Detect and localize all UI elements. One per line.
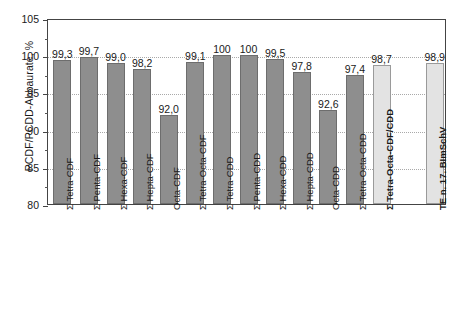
bar-value-label: 98,2: [124, 58, 160, 69]
y-axis-tick: [43, 132, 48, 133]
y-axis-tick-label: 95: [0, 88, 39, 99]
x-axis-label: TE n. 17. BImSchV: [437, 127, 448, 210]
bar-value-label: 99,5: [257, 48, 293, 59]
bar-chart: PCDF/PCDD-Abbaurate, % 80859095100105 99…: [0, 0, 456, 332]
bar-value-label: 98,9: [417, 52, 453, 63]
x-axis-label: Σ Tetra-CDD: [224, 157, 235, 210]
y-axis-tick: [43, 94, 48, 95]
y-axis-tick-label: 85: [0, 163, 39, 174]
bar-value-label: 92,0: [151, 104, 187, 115]
x-axis-label: Σ Tetra-CDF: [64, 158, 75, 210]
x-axis-label: Σ Tetra-Octa-CDD: [357, 133, 368, 210]
x-axis-label: Σ Hepta-CDD: [304, 152, 315, 210]
bar-value-label: 98,7: [364, 54, 400, 65]
y-axis-minor-tick: [45, 150, 48, 151]
y-axis-minor-tick: [45, 39, 48, 40]
y-axis-tick-label: 80: [0, 200, 39, 211]
x-axis-label: Σ Penta-CDF: [91, 154, 102, 210]
y-axis-tick-label: 105: [0, 14, 39, 25]
x-axis-label: Octa-CDD: [330, 166, 341, 210]
y-axis-tick: [43, 20, 48, 21]
y-axis-tick-label: 90: [0, 126, 39, 137]
y-axis-tick: [43, 206, 48, 207]
x-axis-label: Σ Hexa-CDF: [118, 157, 129, 210]
x-axis-label: Σ Hepta-CDF: [144, 153, 155, 210]
x-axis-label: Σ Penta-CDD: [251, 153, 262, 210]
y-axis-minor-tick: [45, 76, 48, 77]
x-axis-label: Σ Tetra-Octa-CDF/CDD: [384, 109, 395, 210]
bar-value-label: 92,6: [310, 99, 346, 110]
y-axis-minor-tick: [45, 187, 48, 188]
y-axis-minor-tick: [45, 113, 48, 114]
y-axis-tick-label: 100: [0, 51, 39, 62]
x-axis-label: Σ Tetra-Octa-CDF: [197, 134, 208, 210]
x-axis-label: Σ Hexa-CDD: [277, 156, 288, 210]
bar-value-label: 97,4: [337, 64, 373, 75]
x-axis-label: Octa-CDF: [171, 167, 182, 210]
bar-value-label: 97,8: [284, 61, 320, 72]
y-axis-tick: [43, 169, 48, 170]
